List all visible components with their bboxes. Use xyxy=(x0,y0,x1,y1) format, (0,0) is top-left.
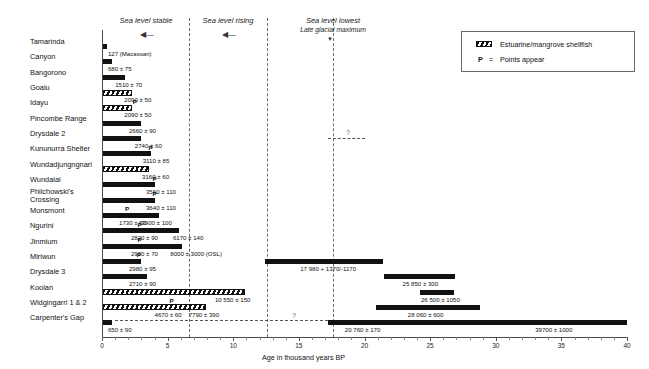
x-tick-minor-23 xyxy=(404,337,405,340)
bar-segment-8-1 xyxy=(102,151,151,156)
era-divider-line-1 xyxy=(267,18,268,337)
legend-equals-sign: = xyxy=(489,55,493,64)
x-tick-minor-29 xyxy=(483,337,484,340)
row-label-11: Philchowski's Crossing xyxy=(30,188,100,205)
archaeology-timeline-chart: Sea level stable◀—Sea level rising◀—Sea … xyxy=(0,0,649,369)
bar-segment-16-1 xyxy=(102,274,147,279)
legend-hatch-swatch-icon xyxy=(476,41,492,47)
x-tick-minor-34 xyxy=(548,337,549,340)
row-label-16: Drysdale 3 xyxy=(30,268,100,276)
value-label-6-1: 2660 ± 90 xyxy=(129,127,156,134)
x-tick-minor-18 xyxy=(338,337,339,340)
value-label-11-1: 3640 ± 110 xyxy=(146,204,176,211)
x-tick-major-5 xyxy=(168,337,169,341)
x-tick-minor-21 xyxy=(378,337,379,340)
x-tick-label-30: 30 xyxy=(486,342,506,349)
points-appear-marker-18-1: P xyxy=(170,297,174,304)
bar-segment-9-1 xyxy=(102,166,149,172)
era-label-sub: Late glacial maximum xyxy=(263,25,403,34)
value-label-13-1: 2820 ± 90 xyxy=(131,234,158,241)
value-label-19-1: 650 ± 90 xyxy=(108,326,132,333)
bar-segment-10-1 xyxy=(102,182,155,187)
x-tick-minor-31 xyxy=(509,337,510,340)
value-label-3-1: 1510 ± 70 xyxy=(115,81,142,88)
row-label-4: Goalu xyxy=(30,84,100,92)
row-label-15: Miriwun xyxy=(30,253,100,261)
points-appear-marker-11-1: P xyxy=(153,190,157,197)
bar-segment-19-1 xyxy=(102,320,112,325)
row-label-7: Drysdale 2 xyxy=(30,130,100,138)
bar-segment-17-2 xyxy=(420,290,454,295)
x-tick-major-30 xyxy=(496,337,497,341)
value-label-16-2: 25 850 ± 300 xyxy=(403,280,439,287)
era-arrow-2: ▼ xyxy=(327,35,333,43)
row-label-14: Jinmium xyxy=(30,238,100,246)
value-label-12-2: 3900 ± 100 xyxy=(141,219,171,226)
x-tick-minor-7 xyxy=(194,337,195,340)
x-tick-minor-26 xyxy=(443,337,444,340)
value-label-4-1: 2090 ± 50 xyxy=(124,96,151,103)
bar-segment-7-1 xyxy=(102,136,141,141)
points-appear-marker-14-1: P xyxy=(137,236,141,243)
bar-segment-14-1 xyxy=(102,244,182,249)
value-label-14-2: 8000 ± 3000 (OSL) xyxy=(170,250,222,257)
x-tick-minor-19 xyxy=(351,337,352,340)
bar-segment-3-1 xyxy=(102,75,125,80)
x-tick-minor-1 xyxy=(115,337,116,340)
x-tick-major-10 xyxy=(233,337,234,341)
x-tick-minor-27 xyxy=(456,337,457,340)
bar-segment-11-1 xyxy=(102,198,155,203)
uncertainty-question-mark-7: ? xyxy=(346,129,350,136)
era-arrow-1: ◀— xyxy=(222,31,236,39)
x-tick-minor-39 xyxy=(614,337,615,340)
x-tick-minor-24 xyxy=(417,337,418,340)
row-label-10: Wundalal xyxy=(30,176,100,184)
row-label-8: Kununurra Shelter xyxy=(30,145,100,153)
value-label-5-1: 2090 ± 50 xyxy=(124,111,151,118)
bar-segment-19-2 xyxy=(115,320,328,321)
bar-segment-16-2 xyxy=(384,274,455,279)
x-tick-minor-4 xyxy=(155,337,156,340)
x-tick-minor-38 xyxy=(601,337,602,340)
value-label-8-1: 3110 ± 85 xyxy=(143,157,170,164)
value-label-18-2: 7790 ± 390 xyxy=(189,311,219,318)
x-tick-minor-17 xyxy=(325,337,326,340)
bar-dashed-uncertain-7 xyxy=(328,138,365,139)
row-label-19: Carpenter's Gap xyxy=(30,314,100,322)
era-divider-line-2 xyxy=(333,18,334,337)
bar-segment-4-1 xyxy=(102,90,132,96)
x-tick-label-5: 5 xyxy=(158,342,178,349)
x-tick-minor-14 xyxy=(286,337,287,340)
bar-segment-12-1 xyxy=(102,213,159,218)
era-label-2: Sea level lowestLate glacial maximum xyxy=(263,16,403,34)
x-tick-label-10: 10 xyxy=(223,342,243,349)
bar-segment-5-1 xyxy=(102,105,132,111)
x-tick-minor-28 xyxy=(470,337,471,340)
points-appear-marker-15-1: P xyxy=(137,251,141,258)
legend-label-points-appear: Points appear xyxy=(500,55,544,64)
value-label-18-1: 4670 ± 60 xyxy=(155,311,182,318)
x-tick-major-0 xyxy=(102,337,103,341)
value-label-10-1: 3560 ± 110 xyxy=(146,188,176,195)
x-axis-title: Age in thousand years BP xyxy=(262,353,345,362)
x-tick-minor-16 xyxy=(312,337,313,340)
row-label-6: Pincombe Range xyxy=(30,115,100,123)
row-label-18: Widgingarri 1 & 2 xyxy=(30,299,100,307)
points-appear-marker-13-1: P xyxy=(137,221,141,228)
x-tick-minor-33 xyxy=(535,337,536,340)
bar-segment-15-2 xyxy=(265,259,383,264)
value-label-19-2: 20 760 ± 170 xyxy=(345,326,381,333)
x-tick-major-40 xyxy=(627,337,628,341)
row-label-3: Bangorono xyxy=(30,69,100,77)
x-tick-minor-2 xyxy=(128,337,129,340)
row-label-1: Tamarinda xyxy=(30,38,100,46)
value-label-17-2: 26 500 ± 1050 xyxy=(421,296,460,303)
value-label-15-1: 2980 ± 95 xyxy=(129,265,156,272)
legend-box xyxy=(461,31,635,72)
value-label-2-1: 680 ± 75 xyxy=(108,65,132,72)
points-appear-marker-5-1: P xyxy=(133,98,137,105)
x-tick-minor-9 xyxy=(220,337,221,340)
x-tick-minor-8 xyxy=(207,337,208,340)
x-tick-minor-13 xyxy=(273,337,274,340)
x-tick-major-25 xyxy=(430,337,431,341)
